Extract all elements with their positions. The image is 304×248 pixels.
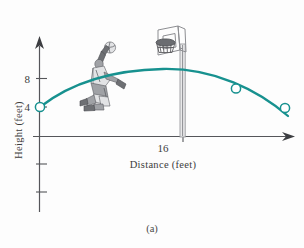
data-point-end[interactable] [280,103,289,112]
x-tick-label-16: 16 [158,142,170,154]
data-point-start[interactable] [35,102,44,111]
y-tick-label-8: 8 [25,73,31,85]
hoop-rim [156,39,175,46]
figure-canvas: 8 4 16 Height (feet) Distance (feet) [0,0,304,248]
trajectory-group [40,69,288,116]
y-axis-title: Height (feet) [13,101,25,159]
trajectory-curve [40,69,288,116]
data-point-mid-right[interactable] [231,84,240,93]
basketball-hoop-icon [156,26,186,137]
x-axis-title: Distance (feet) [130,159,197,171]
player-hand-extended [116,79,126,89]
figure-caption: (a) [146,223,158,235]
axis-group: 8 4 16 Height (feet) Distance (feet) [13,36,295,212]
hoop-net-strand-4 [171,45,172,53]
y-tick-label-4: 4 [25,101,31,113]
basketball-trajectory-figure: 8 4 16 Height (feet) Distance (feet) [0,0,304,248]
player-shoe-back [84,105,95,111]
